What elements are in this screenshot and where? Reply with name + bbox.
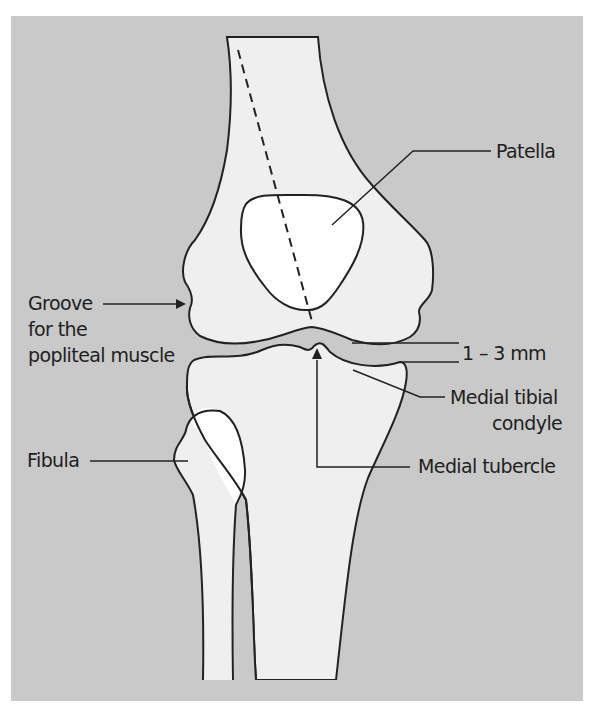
label-fibula: Fibula [27,449,79,471]
label-medial-tubercle: Medial tubercle [418,455,555,477]
knee-diagram: Patella Groove for the popliteal muscle … [0,0,594,712]
label-groove-2: for the [28,318,87,340]
label-joint-space: 1 – 3 mm [462,342,546,364]
label-medial-tibial-2: condyle [492,412,562,434]
label-patella: Patella [496,140,555,162]
label-groove-1: Groove [28,292,93,314]
label-medial-tibial-1: Medial tibial [450,386,558,408]
label-groove-3: popliteal muscle [28,344,175,366]
